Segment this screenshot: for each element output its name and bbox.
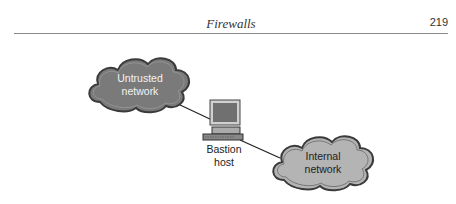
cloud-internal-network: Internal network (273, 136, 373, 190)
bastion-label-line2: host (214, 156, 234, 168)
bastion-label-line1: Bastion (206, 143, 241, 155)
internal-label-line2: network (305, 163, 343, 175)
internal-label-line1: Internal (305, 150, 340, 162)
cpu-case (212, 127, 240, 134)
cloud-untrusted-network: Untrusted network (89, 58, 189, 112)
computer-icon: Bastion host (203, 100, 243, 168)
untrusted-label-line2: network (122, 85, 160, 97)
monitor-screen (213, 103, 237, 122)
edge-bastion-internal (240, 140, 280, 158)
untrusted-label-line1: Untrusted (117, 72, 163, 84)
network-diagram: Untrusted network Bastion host Internal … (0, 0, 456, 204)
edge-untrusted-bastion (178, 104, 212, 120)
